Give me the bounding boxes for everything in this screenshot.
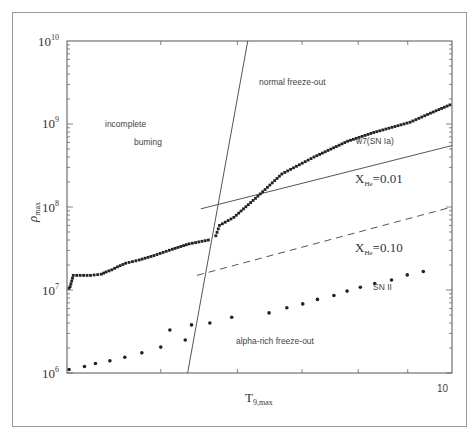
x-he-0-01-line <box>201 146 452 209</box>
boundary-lines <box>188 41 452 373</box>
region-burning-label: buming <box>134 137 162 147</box>
series-sn2-label: SN II <box>373 282 392 292</box>
incomplete-complete-boundary-line <box>188 41 248 373</box>
ytick-1e8: 108 <box>42 199 59 215</box>
series-w7-label: w7(SN Ia) <box>355 136 394 146</box>
xtick-10: 10 <box>437 383 449 394</box>
region-incomplete-label: incomplete <box>105 119 146 129</box>
ytick-1e9: 109 <box>42 115 59 131</box>
region-normal-freezeout-label: normal freeze-out <box>259 77 326 87</box>
chart: 1010 109 108 107 106 10 T9,max ρmax inco… <box>0 0 476 443</box>
ytick-1e7: 107 <box>42 282 59 298</box>
region-labels: incomplete buming normal freeze-out alph… <box>105 77 394 346</box>
axis-ticks <box>67 41 452 373</box>
x-axis-label: T9,max <box>245 390 273 407</box>
ytick-1e6: 106 <box>42 365 59 381</box>
series-w7-sn-ia- <box>68 103 452 289</box>
plot-area <box>67 41 452 373</box>
xhe-010-label: XHe=0.10 <box>355 240 403 257</box>
series-sn-ii <box>67 270 425 372</box>
y-axis-label: ρmax <box>25 202 42 223</box>
ytick-1e10: 1010 <box>38 33 59 49</box>
region-alpha-rich-label: alpha-rich freeze-out <box>236 336 315 346</box>
xhe-001-label: XHe=0.01 <box>355 171 403 188</box>
